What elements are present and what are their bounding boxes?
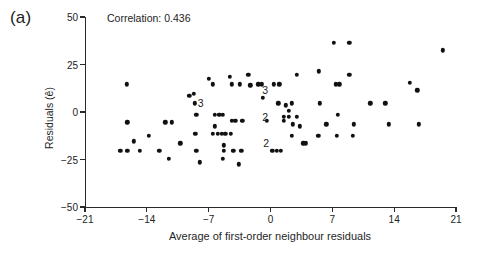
- scatter-point: [221, 113, 225, 117]
- scatter-point: [318, 101, 322, 105]
- scatter-point: [198, 160, 202, 164]
- overlap-count-label: 3: [262, 84, 268, 96]
- x-axis-tick-label: 0: [268, 214, 274, 225]
- scatter-point: [272, 82, 276, 86]
- scatter-point: [283, 103, 287, 107]
- scatter-point: [287, 115, 291, 119]
- x-axis-tick-label: −7: [203, 214, 214, 225]
- scatter-point: [337, 82, 341, 86]
- scatter-point: [125, 149, 129, 153]
- y-axis-tick-label: 25: [67, 59, 78, 70]
- scatter-point: [351, 122, 355, 126]
- scatter-point: [304, 141, 308, 145]
- scatter-point: [282, 118, 286, 122]
- scatter-point: [347, 40, 351, 44]
- scatter-point: [192, 101, 196, 105]
- scatter-point: [211, 82, 215, 86]
- scatter-point: [290, 122, 294, 126]
- scatter-point: [408, 80, 412, 84]
- scatter-point: [167, 156, 171, 160]
- scatter-point: [131, 139, 135, 143]
- x-axis-tick: [146, 207, 147, 212]
- scatter-point: [231, 149, 235, 153]
- scatter-point: [295, 73, 299, 77]
- scatter-point: [289, 101, 293, 105]
- y-axis-tick: [80, 64, 85, 65]
- scatter-point: [246, 73, 250, 77]
- scatter-point: [239, 149, 243, 153]
- scatter-point: [240, 118, 244, 122]
- scatter-point: [221, 149, 225, 153]
- scatter-point: [297, 124, 301, 128]
- scatter-point: [317, 69, 321, 73]
- y-axis-title: Residuals (ê): [43, 48, 55, 188]
- scatter-point: [157, 149, 161, 153]
- x-axis-tick-label: −21: [77, 214, 94, 225]
- x-axis-tick: [84, 207, 85, 212]
- overlap-count-label: 2: [263, 137, 269, 149]
- x-axis-tick: [332, 207, 333, 212]
- x-axis-tick-label: 21: [450, 214, 461, 225]
- scatter-point: [347, 73, 351, 77]
- scatter-point: [221, 143, 225, 147]
- scatter-point: [194, 113, 198, 117]
- scatter-point: [163, 120, 167, 124]
- y-axis-tick: [80, 206, 85, 207]
- scatter-point: [277, 82, 281, 86]
- scatter-point: [125, 120, 129, 124]
- scatter-point: [146, 134, 150, 138]
- x-axis-tick: [394, 207, 395, 212]
- y-axis-tick-label: −50: [61, 202, 78, 213]
- scatter-point: [213, 124, 217, 128]
- scatter-point: [276, 101, 280, 105]
- scatter-point: [221, 156, 225, 160]
- scatter-point: [237, 82, 241, 86]
- scatter-point: [138, 149, 142, 153]
- x-axis-tick-label: 7: [330, 214, 336, 225]
- scatter-point: [228, 75, 232, 79]
- scatter-point: [316, 134, 320, 138]
- overlap-count-label: 3: [198, 97, 204, 109]
- scatter-point: [194, 149, 198, 153]
- scatter-point: [124, 82, 128, 86]
- x-axis-title: Average of first-order neighbour residua…: [169, 230, 371, 242]
- y-axis-tick: [80, 159, 85, 160]
- scatter-point: [387, 122, 391, 126]
- scatter-point: [441, 48, 445, 52]
- scatter-point: [233, 118, 237, 122]
- y-axis-tick-label: 50: [67, 12, 78, 23]
- scatter-point: [324, 122, 328, 126]
- scatter-point: [332, 40, 336, 44]
- y-axis-tick-label: 0: [72, 107, 78, 118]
- x-axis-tick: [270, 207, 271, 212]
- scatter-point: [415, 88, 419, 92]
- scatter-point: [229, 82, 233, 86]
- scatter-point: [169, 120, 173, 124]
- x-axis-tick-label: −14: [138, 214, 155, 225]
- scatter-point: [417, 122, 421, 126]
- overlap-count-label: 2: [262, 111, 268, 123]
- scatter-point: [368, 101, 372, 105]
- panel-label: (a): [10, 8, 31, 28]
- scatter-point: [206, 77, 210, 81]
- y-axis-tick-label: −25: [61, 154, 78, 165]
- scatter-point: [287, 109, 291, 113]
- y-axis-tick: [80, 16, 85, 17]
- scatter-point: [178, 141, 182, 145]
- scatter-plot-figure: (a) Correlation: 0.436 −21−14−7071421 −5…: [0, 0, 481, 259]
- scatter-point: [248, 83, 252, 87]
- scatter-point: [191, 92, 195, 96]
- scatter-point: [335, 134, 339, 138]
- scatter-point: [282, 115, 286, 119]
- scatter-point: [279, 149, 283, 153]
- x-axis-tick: [455, 207, 456, 212]
- x-axis-tick-label: 14: [389, 214, 400, 225]
- scatter-point: [193, 132, 197, 136]
- correlation-annotation: Correlation: 0.436: [107, 12, 190, 24]
- scatter-point: [383, 101, 387, 105]
- y-axis-tick: [80, 111, 85, 112]
- scatter-point: [289, 134, 293, 138]
- scatter-point: [350, 134, 354, 138]
- scatter-point: [335, 113, 339, 117]
- scatter-point: [295, 115, 299, 119]
